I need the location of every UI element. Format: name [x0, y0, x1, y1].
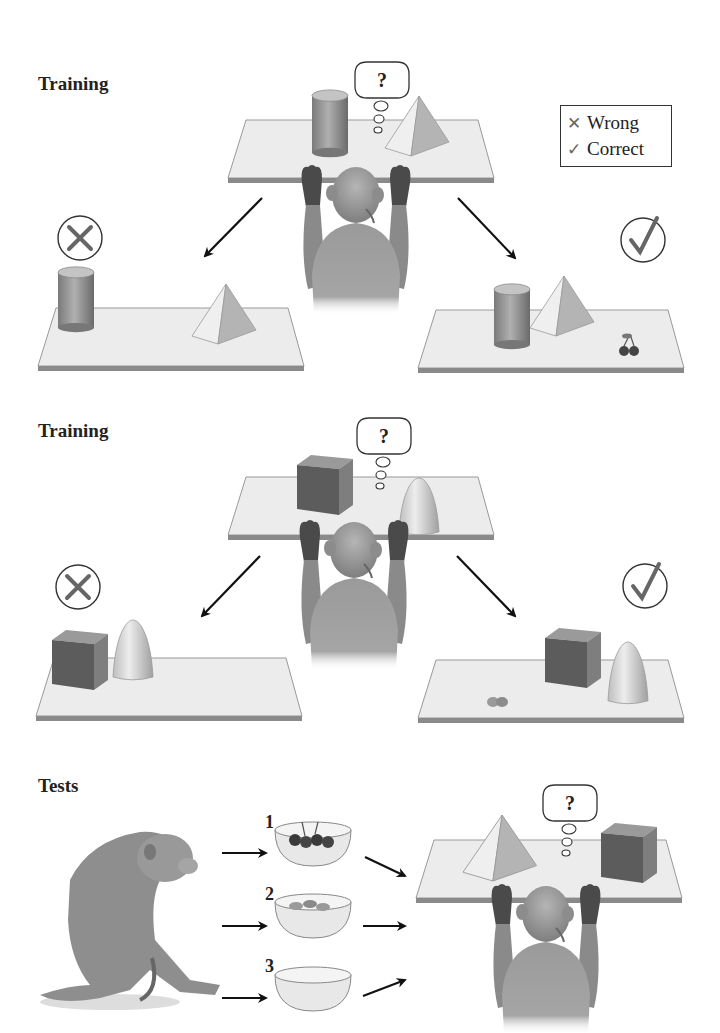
- bowl-3-empty: [275, 967, 351, 1011]
- bowl-1-cherries: [275, 822, 351, 866]
- illustration: ?: [0, 0, 720, 1033]
- arrow-to-wrong-1: [205, 198, 262, 256]
- arrow-to-correct-2: [457, 556, 515, 616]
- training-2-wrong-table: [36, 620, 302, 721]
- arrow-to-wrong-2: [202, 556, 260, 616]
- wrong-icon-2: [56, 565, 100, 609]
- correct-icon-2: [623, 564, 667, 608]
- arrow-bowl-1-to-table: [365, 857, 405, 876]
- training-1-wrong-table: [38, 267, 304, 371]
- training-1-correct-table: [418, 276, 684, 373]
- arrow-bowl-3-to-table: [363, 980, 405, 996]
- bowl-2-peanuts: [275, 894, 351, 938]
- correct-icon-1: [621, 218, 665, 262]
- sitting-monkey: [40, 832, 220, 1010]
- wrong-icon-1: [58, 216, 102, 260]
- training-2-correct-table: [418, 628, 684, 723]
- arrow-to-correct-1: [458, 198, 515, 258]
- monkey-back-3: [492, 884, 601, 1033]
- monkey-back-2: [300, 520, 409, 670]
- monkey-back-1: [302, 165, 411, 315]
